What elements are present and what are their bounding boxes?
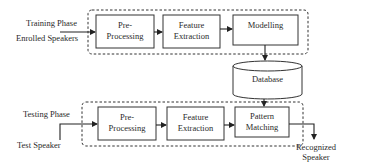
testing-preprocessing-block: Pre- Processing [98, 107, 156, 140]
testing-feature-extraction-block: Feature Extraction [167, 107, 224, 140]
recognized-speaker-line1: Recognized [296, 142, 337, 152]
pattern-matching-line2: Matching [246, 122, 279, 132]
training-feature-extraction-block: Feature Extraction [163, 15, 220, 48]
testing-preprocessing-line1: Pre- [120, 112, 134, 122]
training-preprocessing-block: Pre- Processing [96, 15, 154, 48]
training-preprocessing-line2: Processing [107, 31, 145, 41]
test-speaker-label: Test Speaker [17, 140, 61, 150]
recognized-speaker-line2: Speaker [302, 152, 330, 162]
speaker-recognition-diagram: Training Phase Enrolled Speakers Pre- Pr… [0, 0, 369, 168]
testing-preprocessing-line2: Processing [109, 123, 147, 133]
testing-feature-line2: Extraction [178, 123, 214, 133]
modelling-block: Modelling [233, 15, 298, 45]
output-arrow [289, 124, 314, 139]
pattern-matching-block: Pattern Matching [235, 107, 289, 137]
pattern-matching-line1: Pattern [250, 111, 275, 121]
training-feature-line1: Feature [179, 20, 205, 30]
database-cylinder: Database [233, 61, 302, 99]
training-preprocessing-line1: Pre- [118, 20, 132, 30]
test-input-arrow [60, 124, 97, 140]
training-feature-line2: Extraction [174, 31, 210, 41]
modelling-label: Modelling [248, 20, 284, 30]
database-label: Database [252, 74, 283, 84]
training-phase-label: Training Phase [26, 18, 77, 28]
enrolled-speakers-label: Enrolled Speakers [16, 33, 78, 43]
testing-phase-label: Testing Phase [23, 109, 70, 119]
testing-feature-line1: Feature [183, 112, 209, 122]
